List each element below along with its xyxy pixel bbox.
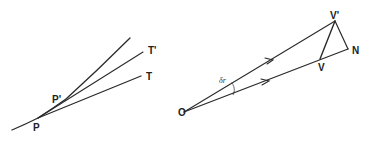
label-t-prime: T' bbox=[148, 45, 157, 56]
label-delta-r: δr bbox=[219, 76, 227, 85]
label-o: O bbox=[178, 107, 186, 118]
label-p-prime: P' bbox=[52, 94, 61, 105]
tangent-line-p-prime bbox=[38, 52, 143, 118]
vector-diagram: O V' V N δr bbox=[178, 10, 359, 118]
segment-v-prime-n bbox=[335, 21, 348, 49]
label-v-prime: V' bbox=[330, 10, 339, 21]
label-n: N bbox=[352, 45, 359, 56]
vector-o-v-prime bbox=[184, 21, 335, 112]
label-t: T bbox=[146, 71, 152, 82]
label-v: V bbox=[318, 62, 325, 73]
label-p: P bbox=[33, 122, 40, 133]
tangent-diagram: P P' T T' bbox=[12, 38, 157, 133]
diagram-canvas: P P' T T' O V' V N δr bbox=[0, 0, 366, 142]
segment-v-prime-v bbox=[320, 21, 335, 59]
curve bbox=[12, 38, 130, 130]
